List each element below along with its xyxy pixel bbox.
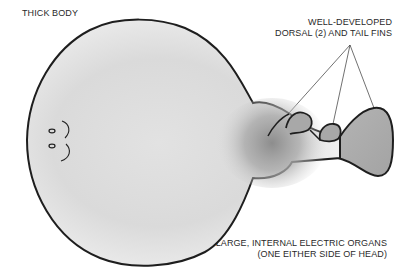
pointer-line-dorsal-1 — [289, 45, 350, 113]
pointer-line-dorsal-2 — [333, 45, 350, 124]
pointer-line-tail — [350, 45, 374, 108]
fish-diagram — [0, 0, 420, 278]
electric-organ-shading — [217, 98, 327, 188]
tail-fin — [336, 108, 393, 176]
